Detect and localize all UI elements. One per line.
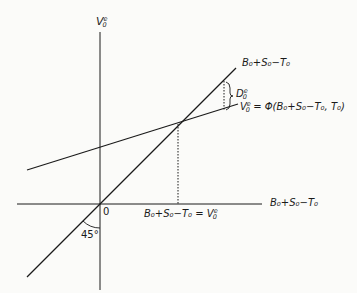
- function-label: Ve0 = Φ(B₀+S₀−T₀, T₀): [240, 101, 345, 114]
- equilibrium-label: B₀+S₀−T₀ = Ve0: [144, 208, 217, 221]
- angle-arc: [83, 221, 100, 228]
- diagram-canvas: [0, 0, 357, 293]
- y-axis-label: Ve0: [96, 16, 107, 29]
- angle-label: 45°: [81, 230, 99, 240]
- line-45-degree: [27, 68, 236, 277]
- line-45-label: B₀+S₀−T₀: [242, 58, 290, 68]
- x-axis-label: B₀+S₀−T₀: [270, 198, 318, 208]
- function-line: [27, 104, 238, 170]
- gap-label: De0: [236, 88, 247, 101]
- origin-label: 0: [103, 207, 109, 217]
